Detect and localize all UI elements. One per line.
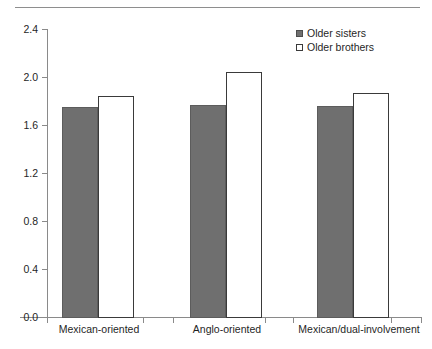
y-tick-label: 1.6 xyxy=(4,120,38,130)
legend-item-older-sisters: Older sisters xyxy=(296,26,374,40)
legend-label-older-sisters: Older sisters xyxy=(307,26,366,40)
y-tick-label: 1.2 xyxy=(4,168,38,178)
y-tick-label: 0.0 xyxy=(4,312,38,322)
chart-legend: Older sisters Older brothers xyxy=(296,26,374,54)
filled-square-icon xyxy=(296,30,303,37)
y-tick-mark xyxy=(42,269,48,270)
y-tick-label: 2.0 xyxy=(4,72,38,82)
bar-older-sisters-mexican-oriented xyxy=(62,107,98,318)
y-tick-label-wrap: 0.4 xyxy=(0,264,38,274)
x-axis-category-label-mexican-oriented: Mexican-oriented xyxy=(38,323,160,336)
y-tick-mark xyxy=(42,221,48,222)
y-tick-mark xyxy=(42,173,48,174)
bar-older-sisters-mexican-dual-involvement xyxy=(317,106,353,318)
open-square-icon xyxy=(296,44,303,51)
y-tick-label-wrap: 2.4 xyxy=(0,24,38,34)
y-tick-mark xyxy=(42,125,48,126)
y-tick-label-wrap: 0.0 xyxy=(0,312,38,322)
y-tick-label: 2.4 xyxy=(4,24,38,34)
y-tick-label: 0.8 xyxy=(4,216,38,226)
bar-older-brothers-anglo-oriented xyxy=(226,72,262,318)
y-tick-label: 0.4 xyxy=(4,264,38,274)
x-axis-category-label-anglo-oriented: Anglo-oriented xyxy=(166,323,288,336)
y-tick-label-wrap: 2.0 xyxy=(0,72,38,82)
y-tick-label-wrap: 1.2 xyxy=(0,168,38,178)
bar-chart-figure: 2.4 2.0 1.6 1.2 0.8 0.4 0.0 xyxy=(0,0,432,349)
y-tick-mark xyxy=(42,77,48,78)
legend-label-older-brothers: Older brothers xyxy=(307,40,374,54)
x-axis-category-label-mexican-dual-involvement: Mexican/dual-involvement xyxy=(287,323,431,336)
bar-older-sisters-anglo-oriented xyxy=(190,105,226,318)
bar-older-brothers-mexican-oriented xyxy=(98,96,134,318)
y-tick-mark xyxy=(42,29,48,30)
bar-older-brothers-mexican-dual-involvement xyxy=(353,93,389,318)
legend-item-older-brothers: Older brothers xyxy=(296,40,374,54)
y-tick-label-wrap: 0.8 xyxy=(0,216,38,226)
y-tick-label-wrap: 1.6 xyxy=(0,120,38,130)
